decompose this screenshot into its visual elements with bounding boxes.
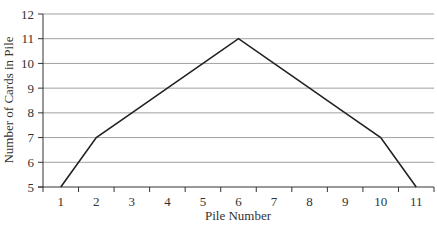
x-tick-label: 5 — [200, 194, 207, 209]
x-axis: 1234567891011 — [38, 187, 434, 209]
gridlines — [43, 14, 434, 162]
y-tick-label: 10 — [21, 56, 34, 71]
x-tick-label: 8 — [306, 194, 313, 209]
x-tick-label: 4 — [164, 194, 171, 209]
y-tick-label: 9 — [28, 81, 35, 96]
y-tick-label: 11 — [21, 31, 34, 46]
x-tick-label: 11 — [410, 194, 423, 209]
y-axis-title: Number of Cards in Pile — [1, 36, 16, 163]
x-tick-label: 1 — [58, 194, 65, 209]
y-tick-label: 6 — [28, 155, 35, 170]
x-tick-label: 7 — [271, 194, 278, 209]
x-tick-label: 9 — [342, 194, 349, 209]
y-tick-label: 12 — [21, 7, 34, 22]
x-axis-title: Pile Number — [205, 208, 272, 223]
x-tick-label: 2 — [93, 194, 100, 209]
x-tick-label: 3 — [129, 194, 136, 209]
y-tick-label: 7 — [28, 130, 35, 145]
y-tick-label: 5 — [28, 180, 35, 195]
y-tick-label: 8 — [28, 105, 35, 120]
x-tick-label: 10 — [374, 194, 387, 209]
line-chart: 56789101112 1234567891011 Pile Number Nu… — [0, 0, 437, 226]
y-axis: 56789101112 — [21, 7, 43, 195]
x-tick-label: 6 — [235, 194, 242, 209]
